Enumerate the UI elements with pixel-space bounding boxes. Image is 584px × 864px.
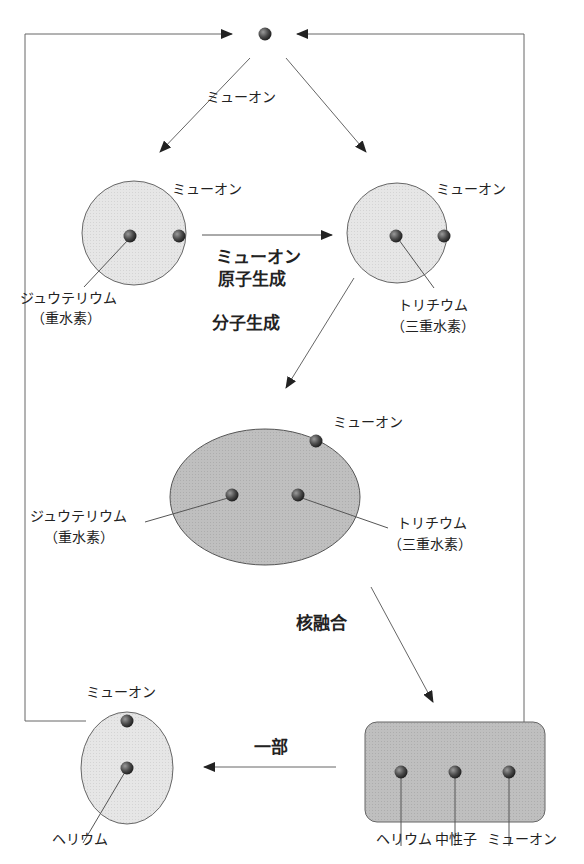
product-neutron-label: 中性子: [435, 830, 477, 848]
atom-formation-label-2: 原子生成: [218, 268, 286, 290]
deuterium-nucleus: [226, 489, 239, 502]
deuterium-muon-label: ミューオン: [172, 180, 242, 198]
muon-particle: [310, 435, 323, 448]
deuterium-atom: [82, 181, 186, 287]
muonic-molecule: [145, 429, 388, 565]
tritium-label-sub: （三重水素）: [391, 317, 475, 335]
partial-label: 一部: [254, 736, 288, 758]
product-muon-label: ミューオン: [487, 830, 557, 848]
tritium-nucleus: [390, 230, 403, 243]
arrow-fusion: [371, 587, 433, 702]
muon-particle: [173, 230, 186, 243]
helium-nucleus: [121, 762, 134, 775]
muon-particle: [503, 766, 516, 779]
molecule-muon-label: ミューオン: [333, 413, 403, 431]
helium-muon-label: ミューオン: [86, 683, 156, 701]
neutron-particle: [449, 766, 462, 779]
diagram-canvas: [0, 0, 584, 864]
tritium-label: トリチウム: [398, 296, 468, 314]
deuterium-label: ジュウテリウム: [20, 289, 117, 307]
edge-label-muon: ミューオン: [206, 88, 276, 106]
product-helium-label: ヘリウム: [376, 830, 432, 848]
molecule-tritium-label: トリチウム: [397, 514, 467, 532]
deuterium-label-sub: （重水素）: [31, 309, 101, 327]
molecule-deuterium-label: ジュウテリウム: [30, 507, 127, 525]
molecule-deuterium-label-sub: （重水素）: [44, 528, 114, 546]
tritium-atom: [347, 183, 451, 288]
tritium-nucleus: [292, 489, 305, 502]
atom-formation-label-1: ミューオン: [216, 246, 301, 268]
arrow-muon-to-tritium: [286, 58, 366, 152]
return-loop-left: [25, 34, 232, 721]
muon-particle: [121, 715, 134, 728]
molecule-tritium-label-sub: （三重水素）: [388, 535, 472, 553]
arrow-molecule-formation: [286, 278, 354, 388]
free-muon-particle: [259, 28, 272, 41]
return-loop-right: [297, 34, 524, 743]
helium-atom: [81, 712, 173, 843]
fusion-label: 核融合: [296, 612, 347, 634]
helium-nucleus: [395, 766, 408, 779]
tritium-muon-label: ミューオン: [436, 180, 506, 198]
molecule-formation-label: 分子生成: [212, 312, 280, 334]
helium-label: ヘリウム: [52, 830, 108, 848]
fusion-products: [365, 722, 545, 846]
muon-particle: [438, 230, 451, 243]
deuterium-nucleus: [124, 230, 137, 243]
